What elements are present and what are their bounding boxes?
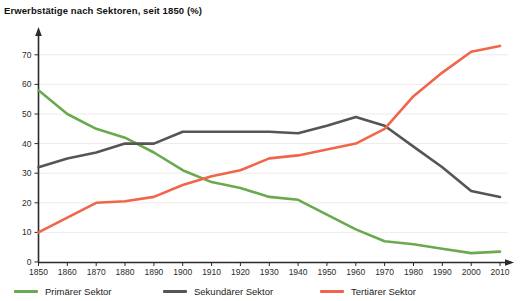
svg-text:2000: 2000	[462, 267, 481, 277]
y-axis-ticks: 010203040506070	[22, 50, 38, 267]
data-series	[39, 46, 501, 253]
legend-swatch-sekundaerer-sektor	[163, 290, 187, 294]
svg-text:30: 30	[22, 168, 32, 178]
svg-text:20: 20	[22, 198, 32, 208]
axis-lines	[35, 27, 514, 266]
svg-text:70: 70	[22, 50, 32, 60]
legend-swatch-tertiaerer-sektor	[320, 290, 344, 294]
legend-item-primaerer-sektor[interactable]: Primärer Sektor	[14, 282, 112, 301]
chart-container: Erwerbstätige nach Sektoren, seit 1850 (…	[0, 0, 527, 301]
legend-label-sekundaerer-sektor: Sekundärer Sektor	[194, 286, 273, 297]
svg-text:60: 60	[22, 79, 32, 89]
chart-plot-area: 010203040506070 185018601870188018901900…	[0, 0, 527, 301]
svg-text:1960: 1960	[346, 267, 365, 277]
svg-text:1930: 1930	[260, 267, 279, 277]
svg-text:1970: 1970	[375, 267, 394, 277]
svg-text:1850: 1850	[29, 267, 48, 277]
svg-text:0: 0	[27, 257, 32, 267]
svg-text:40: 40	[22, 139, 32, 149]
svg-text:1990: 1990	[433, 267, 452, 277]
svg-text:1910: 1910	[202, 267, 221, 277]
x-axis-ticks: 1850186018701880189019001910192019301940…	[29, 262, 510, 277]
legend-item-sekundaerer-sektor[interactable]: Sekundärer Sektor	[163, 282, 273, 301]
svg-text:2010: 2010	[491, 267, 510, 277]
legend-label-tertiaerer-sektor: Tertiärer Sektor	[351, 286, 416, 297]
svg-text:1880: 1880	[116, 267, 135, 277]
svg-text:50: 50	[22, 109, 32, 119]
legend-label-primaerer-sektor: Primärer Sektor	[45, 286, 112, 297]
svg-text:1900: 1900	[173, 267, 192, 277]
svg-text:1860: 1860	[58, 267, 77, 277]
gridlines	[39, 55, 509, 233]
legend-swatch-primaerer-sektor	[14, 290, 38, 294]
svg-text:10: 10	[22, 227, 32, 237]
svg-text:1920: 1920	[231, 267, 250, 277]
svg-text:1980: 1980	[404, 267, 423, 277]
svg-text:1890: 1890	[144, 267, 163, 277]
chart-legend: Primärer Sektor Sekundärer Sektor Tertiä…	[0, 282, 527, 301]
svg-text:1950: 1950	[317, 267, 336, 277]
svg-text:1870: 1870	[87, 267, 106, 277]
legend-item-tertiaerer-sektor[interactable]: Tertiärer Sektor	[320, 282, 416, 301]
svg-text:1940: 1940	[289, 267, 308, 277]
